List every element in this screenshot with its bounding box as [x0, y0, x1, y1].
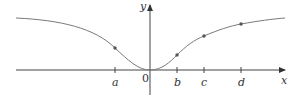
- curve-points: [113, 22, 242, 56]
- tick-label-d: d: [238, 76, 245, 89]
- point-b: [175, 53, 178, 56]
- tick-label-c: c: [201, 76, 207, 89]
- y-axis-label: y: [139, 0, 147, 13]
- function-graph: a b c d 0 x y: [0, 0, 301, 97]
- tick-label-b: b: [174, 76, 181, 89]
- tick-label-a: a: [112, 76, 119, 89]
- x-axis-label: x: [281, 74, 288, 87]
- point-c: [202, 34, 205, 37]
- origin-label: 0: [142, 72, 149, 85]
- point-a: [113, 46, 116, 49]
- point-d: [239, 22, 242, 25]
